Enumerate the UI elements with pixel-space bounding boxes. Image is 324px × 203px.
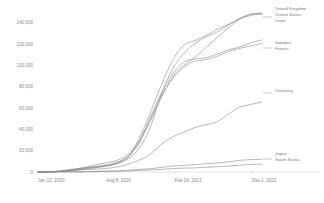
legend-item-label[interactable]: Israel	[275, 18, 286, 23]
legend-item-label[interactable]: Sweden	[275, 40, 291, 45]
legend-item-label[interactable]: South Korea	[275, 157, 300, 162]
legend-item-label[interactable]: United States	[275, 12, 302, 17]
legend-item-label[interactable]: Japan	[275, 151, 288, 156]
y-axis-label: 100,000	[16, 63, 33, 68]
y-axis-label: 60,000	[19, 106, 33, 111]
y-axis-label: 40,000	[19, 127, 33, 132]
legend: United KingdomUnited StatesIsraelSwedenF…	[263, 6, 307, 162]
y-axis-label: 120,000	[16, 42, 33, 47]
x-axis-label: Jan 22, 2020	[38, 178, 65, 183]
legend-item-label[interactable]: France	[275, 46, 289, 51]
chart-svg: 020,00040,00060,00080,000100,000120,0001…	[0, 0, 324, 203]
y-axis-label: 140,000	[16, 20, 33, 25]
x-axis-label: Dec 1, 2021	[252, 178, 277, 183]
y-axis-label: 0	[30, 170, 33, 175]
y-axis-label: 20,000	[19, 148, 33, 153]
axis-lines	[38, 172, 320, 174]
y-axis-label: 80,000	[19, 84, 33, 89]
x-axis-label: Feb 24, 2021	[175, 178, 203, 183]
legend-item-label[interactable]: Germany	[275, 88, 294, 93]
series-line	[38, 43, 262, 172]
y-axis-tick-labels: 020,00040,00060,00080,000100,000120,0001…	[16, 20, 33, 174]
series-line	[38, 13, 262, 172]
x-axis-label: Aug 8, 2020	[106, 178, 131, 183]
series-lines	[38, 13, 262, 172]
series-line	[38, 40, 262, 172]
series-line	[38, 14, 262, 172]
legend-item-label[interactable]: United Kingdom	[275, 6, 307, 11]
x-axis-tick-labels: Jan 22, 2020Aug 8, 2020Feb 24, 2021Dec 1…	[38, 178, 277, 183]
series-line	[38, 14, 262, 172]
line-chart: 020,00040,00060,00080,000100,000120,0001…	[0, 0, 324, 203]
